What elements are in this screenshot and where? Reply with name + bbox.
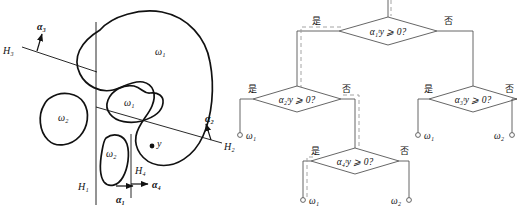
edge-n4-no [399,161,409,198]
region-omega1-inner-outline [107,86,163,123]
leaf-omega2-a-marker [510,133,515,138]
leaf-omega1-c-marker [301,198,306,203]
figure-canvas: H₃ α₃ H₂ α₂ H₁ α₁ H₄ α₄ ω₁ ω₁ ω₂ ω₂ y α₁… [0,0,517,213]
leaf-omega2-b-marker [407,198,412,203]
leaf-omega1-c-label: ω₁ [309,196,319,206]
alpha-4-label: α₄ [152,179,161,190]
alpha-3-arrow [37,34,42,51]
decision-node-alpha4-label: α₄ᵗy ⩾ 0? [337,157,374,167]
edge-n3-yes [418,99,429,133]
edge-label-n4-no: 否 [400,146,409,156]
edge-label-n2-yes: 是 [248,84,257,94]
region-omega2-lower-outline [100,135,128,186]
edge-label-n3-yes: 是 [424,84,433,94]
leaf-omega1-a-marker [238,133,243,138]
decision-node-alpha2-label: α₂ᵗy ⩾ 0? [279,95,316,105]
hyperplane-H3-line [22,47,97,72]
highlight-edge-n1-yes [301,27,341,96]
highlight-edge-n2-no [343,95,359,146]
region-omega1-outer-outline [77,11,212,165]
region-omega2-left-label: ω₂ [58,112,69,123]
alpha-1-label: α₁ [116,194,125,205]
decision-node-alpha1-label: α₁ᵗy ⩾ 0? [370,27,407,37]
test-point-y-label: y [156,138,162,149]
right-panel-decision-tree: α₁ᵗy ⩾ 0? 是 否 α₂ᵗy ⩾ 0? 是 ω₁ 否 α₃ᵗy ⩾ 0?… [238,0,517,206]
leaf-omega1-b-label: ω₁ [424,131,434,141]
hyperplane-H4-label: H₄ [134,165,146,176]
edge-n2-no [341,99,355,148]
edge-label-n2-no: 否 [342,84,351,94]
test-point-y-dot [150,144,155,149]
leaf-omega1-a-label: ω₁ [246,131,256,141]
edge-n2-yes [240,99,253,133]
decision-node-alpha3-label: α₃ᵗy ⩾ 0? [455,95,492,105]
leaf-omega1-b-marker [416,133,421,138]
edge-label-n4-yes: 是 [311,146,320,156]
edge-label-n3-no: 否 [505,84,514,94]
hyperplane-H1-label: H₁ [77,181,89,192]
left-panel-region-diagram: H₃ α₃ H₂ α₂ H₁ α₁ H₄ α₄ ω₁ ω₁ ω₂ ω₂ y [2,11,235,205]
edge-label-n1-no: 否 [444,16,453,26]
edge-n3-no [512,99,517,133]
alpha-2-arrow [206,124,211,140]
leaf-omega2-a-label: ω₂ [494,131,505,141]
hyperplane-H3-label: H₃ [2,45,14,56]
alpha-2-label: α₂ [205,113,214,124]
region-omega1-inner-label: ω₁ [124,97,135,108]
figure-root: H₃ α₃ H₂ α₂ H₁ α₁ H₄ α₄ ω₁ ω₁ ω₂ ω₂ y α₁… [0,0,517,213]
edge-label-n1-yes: 是 [312,16,321,26]
highlight-edge-n4-yes [307,157,313,197]
hyperplane-H2-label: H₂ [223,141,235,152]
alpha-3-label: α₃ [37,21,46,32]
leaf-omega2-b-label: ω₂ [391,196,402,206]
region-omega1-outer-label: ω₁ [155,46,166,57]
region-omega2-lower-label: ω₂ [106,148,117,159]
